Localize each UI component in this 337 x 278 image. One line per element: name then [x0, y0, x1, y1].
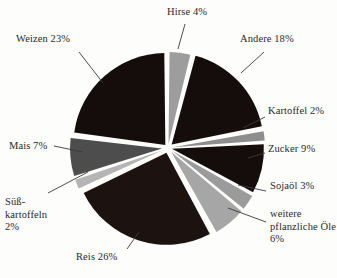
slice-label-zucker: Zucker 9% [268, 143, 315, 156]
slice-label-weizen: Weizen 23% [16, 33, 70, 46]
slice-label-weitere-oele: weitere pflanzliche Öle 6% [270, 208, 336, 246]
slice-label-reis: Reis 26% [76, 251, 117, 264]
leader-line-hirse [178, 24, 185, 49]
slice-label-hirse: Hirse 4% [167, 6, 207, 19]
slice-label-mais: Mais 7% [9, 140, 47, 153]
leader-line-weizen [79, 52, 103, 83]
slice-label-suesskartoffeln: Süß- kartoffeln 2% [5, 196, 63, 234]
pie-slices-group [70, 52, 265, 245]
pie-slice-weizen[interactable] [74, 53, 165, 145]
slice-label-andere: Andere 18% [240, 33, 294, 46]
pie-chart-page: Hirse 4% Andere 18% Kartoffel 2% Zucker … [0, 0, 337, 278]
leader-line-andere [241, 52, 264, 73]
slice-label-kartoffel: Kartoffel 2% [268, 105, 324, 118]
slice-label-sojaoel: Sojaöl 3% [270, 180, 314, 193]
